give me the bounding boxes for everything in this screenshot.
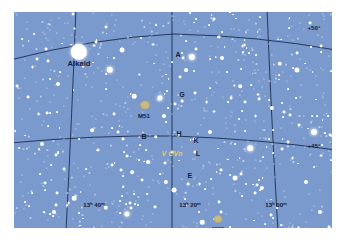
star-point [50, 165, 52, 167]
star-point [330, 71, 332, 73]
star-point [307, 128, 309, 130]
star-point [193, 70, 195, 72]
star-point [47, 155, 48, 156]
star-point [152, 214, 153, 215]
star-point [142, 132, 143, 133]
star-point [51, 180, 52, 181]
star-point [148, 186, 149, 187]
label-variable-v-cvn: V CVn [161, 150, 182, 157]
star-point [290, 106, 291, 107]
star-point [49, 112, 51, 114]
star-point [203, 168, 204, 169]
star-point [312, 209, 313, 210]
star-point [97, 149, 100, 152]
star-point [67, 202, 70, 205]
star-point [139, 12, 140, 13]
label-star-l: L [196, 150, 200, 157]
star-point [136, 158, 137, 159]
star-point [195, 159, 196, 160]
star-point [105, 168, 106, 169]
star-point [130, 115, 131, 116]
star-point [256, 64, 257, 65]
star-point [184, 59, 185, 60]
ra-tick-13h20m: 13ʰ 20ᵐ [179, 202, 200, 208]
star-point [48, 23, 49, 24]
star-point [120, 212, 122, 214]
star-point [48, 39, 49, 40]
star-point [158, 101, 159, 102]
star-point [227, 101, 229, 103]
star-point [154, 135, 157, 138]
star-point [98, 209, 99, 210]
star-point [238, 84, 242, 88]
star-point [179, 76, 182, 79]
star-point [152, 158, 153, 159]
star-point [146, 62, 147, 63]
star-point [55, 154, 56, 155]
star-point [231, 111, 232, 112]
star-chart-canvas[interactable]: Alkaid A G B H K L E V CVn M51 M63 13ʰ 4… [14, 12, 332, 228]
star-point [126, 145, 127, 146]
star-point [23, 208, 24, 209]
star-point [259, 80, 260, 81]
star-point [66, 205, 68, 207]
star-point [251, 85, 252, 86]
star-point [204, 107, 205, 108]
star-point [230, 96, 233, 99]
star-point [118, 121, 119, 122]
star-point [150, 222, 151, 223]
star-point [102, 113, 103, 114]
star-point [129, 202, 132, 205]
star-point [253, 61, 254, 62]
label-m63: M63 [212, 226, 224, 228]
star-point [233, 28, 234, 29]
star-point [126, 192, 127, 193]
star-point [206, 97, 207, 98]
star-point [58, 144, 59, 145]
star-point [262, 156, 264, 158]
star-point [77, 45, 78, 46]
star-point [250, 84, 252, 86]
star-point [271, 54, 272, 55]
star-point [259, 189, 261, 191]
star-point [209, 204, 210, 205]
star-point [15, 212, 16, 213]
star-point [204, 110, 205, 111]
star-point [254, 115, 257, 118]
star-point [112, 15, 113, 16]
star-point [260, 186, 264, 190]
star-point [47, 125, 49, 127]
star-point [290, 109, 291, 110]
star-point [292, 122, 293, 123]
star-point [37, 113, 40, 116]
star-point [322, 211, 323, 212]
star-point [152, 31, 153, 32]
star-point [163, 63, 164, 64]
star-point [129, 207, 132, 210]
star-point [122, 186, 124, 188]
star-point [159, 92, 160, 93]
star-point [110, 145, 111, 146]
star-point [261, 86, 262, 87]
star-point [134, 151, 135, 152]
star-point [227, 159, 229, 161]
star-point [45, 38, 46, 39]
star-point [257, 70, 258, 71]
star-point [290, 223, 291, 224]
star-point [212, 187, 213, 188]
star-point [85, 73, 86, 74]
star-point [18, 88, 19, 89]
star-point [254, 167, 255, 168]
star-point [121, 195, 123, 197]
star-point [218, 72, 219, 73]
star-point [229, 226, 231, 228]
star-point [168, 22, 169, 23]
star-point [30, 108, 31, 109]
star-point [186, 226, 187, 227]
label-star-e: E [188, 172, 193, 179]
star-point [193, 221, 194, 222]
star-point [313, 166, 315, 168]
star-point [163, 25, 164, 26]
star-point [18, 147, 20, 149]
star-point [171, 151, 174, 154]
